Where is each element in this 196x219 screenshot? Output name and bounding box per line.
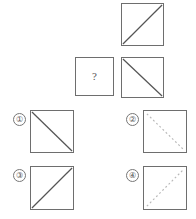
diagonal-down-icon [122,58,163,97]
question-mark-label: ? [92,71,97,82]
matrix-cell-top-square [121,3,164,46]
option-2-square[interactable] [143,110,187,153]
option-2-number[interactable]: ② [126,113,139,126]
diagonal-up-icon [31,167,73,209]
option-1-number[interactable]: ① [13,113,26,126]
option-1-square[interactable] [30,110,74,153]
puzzle-canvas: ? ① ② ③ ④ [0,0,196,219]
diagonal-down-dashed-icon [144,111,186,152]
diagonal-up-dashed-icon [144,167,186,209]
matrix-cell-question-square: ? [75,57,114,96]
option-4-number[interactable]: ④ [126,169,139,182]
diagonal-down-icon [31,111,73,152]
matrix-cell-middle-square [121,57,164,98]
diagonal-up-icon [122,4,163,45]
option-3-square[interactable] [30,166,74,210]
option-4-square[interactable] [143,166,187,210]
option-3-number[interactable]: ③ [13,169,26,182]
